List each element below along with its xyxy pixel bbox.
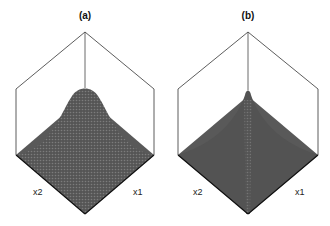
x2-label: x2 — [193, 187, 203, 197]
x1-label: x1 — [295, 187, 305, 197]
panel-b: (b) x2 x1 — [178, 10, 318, 216]
panel-a-title: (a) — [79, 10, 91, 21]
panel-a: (a) x2 x1 — [16, 10, 154, 216]
panel-b-title: (b) — [242, 10, 255, 21]
figure: (a) x2 x1 (b) x2 x1 — [0, 0, 330, 226]
x2-label: x2 — [33, 187, 43, 197]
x1-label: x1 — [133, 187, 143, 197]
